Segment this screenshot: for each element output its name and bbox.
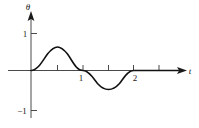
figure-root: θ t 1 −1 1 2 [0,0,199,128]
theta-curve-group [31,47,178,90]
y-axis-group [28,11,37,118]
x-axis-label: t [189,66,192,76]
theta-sine-curve [31,47,178,90]
y-axis-label: θ [26,2,31,12]
y-tick-label-negative-one: −1 [17,106,27,116]
x-tick-label-two: 2 [133,73,138,83]
plot-canvas: θ t 1 −1 1 2 [0,0,199,128]
x-tick-label-one: 1 [79,73,84,83]
y-tick-label-one: 1 [23,29,28,39]
